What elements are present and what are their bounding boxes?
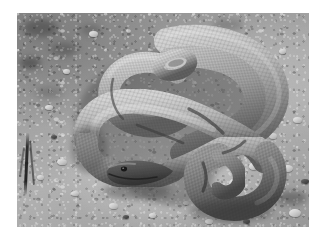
page-root (0, 0, 309, 245)
snake-photograph (17, 13, 309, 227)
snake-illustration (17, 13, 309, 227)
snake-subject (17, 13, 309, 227)
page-margin-bottom (0, 227, 309, 245)
page-margin-top (0, 0, 309, 13)
page-margin-left (0, 0, 17, 245)
